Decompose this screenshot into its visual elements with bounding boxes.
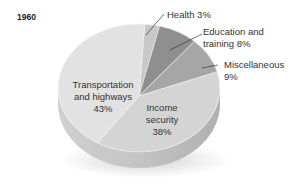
label-income-line1: Income — [146, 102, 177, 113]
label-miscellaneous-line1: Miscellaneous — [224, 59, 284, 70]
label-transportation-line3: 43% — [93, 103, 113, 114]
label-education-line1: Education and — [203, 26, 264, 37]
label-miscellaneous-line2: 9% — [224, 71, 238, 82]
label-health: Health 3% — [167, 9, 211, 20]
label-transportation-line2: and highways — [74, 91, 132, 102]
label-transportation-line1: Transportation — [73, 79, 134, 90]
pie-chart: Health 3% Education and training 8% Misc… — [0, 0, 300, 183]
label-income-line3: 38% — [152, 126, 172, 137]
label-income-line2: security — [146, 114, 179, 125]
label-education-line2: training 8% — [203, 38, 251, 49]
